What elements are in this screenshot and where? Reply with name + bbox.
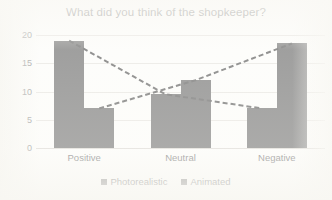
chart-title: What did you think of the shopkeeper? (0, 6, 332, 18)
chart-legend: PhotorealisticAnimated (0, 176, 332, 187)
legend-label: Animated (190, 176, 230, 187)
bar (181, 80, 211, 148)
y-axis-tick-label: 5 (6, 115, 32, 125)
y-axis-tick-label: 15 (6, 58, 32, 68)
legend-swatch-icon (181, 179, 187, 185)
legend-item[interactable]: Photorealistic (101, 176, 167, 187)
legend-label: Photorealistic (110, 176, 167, 187)
x-axis-tick-label: Neutral (165, 152, 196, 163)
bar-chart: What did you think of the shopkeeper? 05… (0, 0, 332, 200)
bar (54, 41, 84, 148)
plot-area (36, 35, 325, 148)
gridline (36, 148, 325, 149)
y-axis-tick-label: 20 (6, 30, 32, 40)
y-axis-tick-label: 10 (6, 87, 32, 97)
gridline (36, 35, 325, 36)
x-axis-tick-label: Positive (68, 152, 101, 163)
bar (247, 108, 277, 148)
x-axis-tick-label: Negative (258, 152, 296, 163)
legend-swatch-icon (101, 179, 107, 185)
bar (84, 108, 114, 148)
bar (277, 43, 307, 148)
y-axis: 05101520 (0, 35, 32, 148)
legend-item[interactable]: Animated (181, 176, 230, 187)
bar (151, 94, 181, 148)
y-axis-tick-label: 0 (6, 143, 32, 153)
